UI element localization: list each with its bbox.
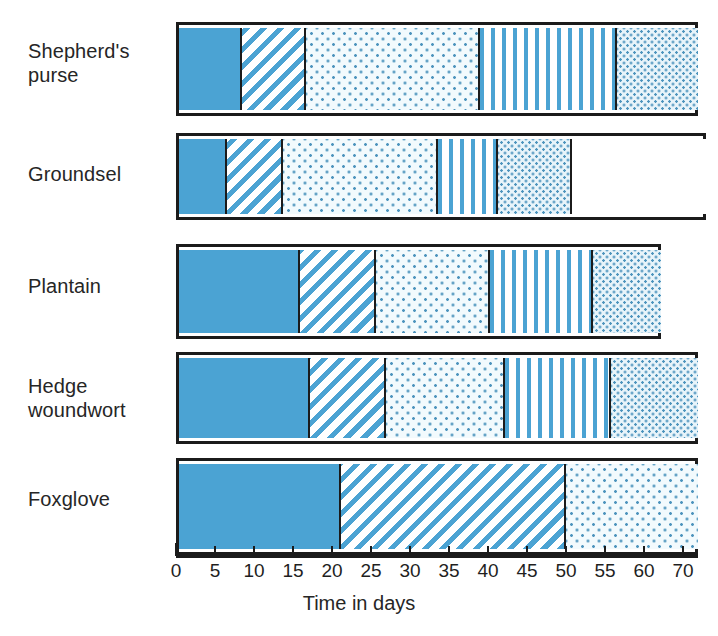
bar-row bbox=[176, 133, 706, 220]
axis-tick-label: 70 bbox=[672, 560, 693, 582]
bar-segment-fine-dots bbox=[611, 358, 698, 438]
axis-tick-label: 35 bbox=[438, 560, 459, 582]
bar-segment-vertical bbox=[480, 28, 617, 110]
bar-frame bbox=[176, 22, 698, 116]
stacked-bar-chart: Shepherd's purse Groundsel Plantain Hedg… bbox=[0, 0, 718, 636]
axis-tick-label: 20 bbox=[321, 560, 342, 582]
bar-segment-fine-dots bbox=[498, 139, 572, 214]
axis-tick-label: 55 bbox=[594, 560, 615, 582]
category-label-shepherds-purse: Shepherd's purse bbox=[28, 40, 168, 87]
bar-segment-solid bbox=[179, 250, 300, 333]
axis-tick-label: 40 bbox=[477, 560, 498, 582]
bar-frame bbox=[176, 458, 698, 555]
bar-segment-dots bbox=[376, 250, 490, 333]
bar-row bbox=[176, 458, 698, 555]
bar-segment-diagonal bbox=[310, 358, 386, 438]
bar-segment-diagonal bbox=[227, 139, 283, 214]
category-label-hedge-woundwort: Hedge woundwort bbox=[28, 375, 168, 422]
bar-segment-dots bbox=[306, 28, 480, 110]
category-label-foxglove: Foxglove bbox=[28, 488, 168, 512]
axis-tick-label: 50 bbox=[555, 560, 576, 582]
bar-segment-empty bbox=[572, 139, 706, 214]
bar-segment-solid bbox=[179, 358, 310, 438]
bar-segment-diagonal bbox=[300, 250, 376, 333]
bar-segment-dots bbox=[386, 358, 505, 438]
axis-tick-label: 45 bbox=[516, 560, 537, 582]
bar-segment-fine-dots bbox=[593, 250, 661, 333]
axis-tick-label: 30 bbox=[399, 560, 420, 582]
bar-segment-vertical bbox=[505, 358, 611, 438]
bar-row bbox=[176, 352, 698, 444]
bar-row bbox=[176, 22, 698, 116]
axis-tick-label: 0 bbox=[171, 560, 182, 582]
axis-tick-label: 25 bbox=[360, 560, 381, 582]
bar-segment-diagonal bbox=[242, 28, 306, 110]
x-axis-title: Time in days bbox=[0, 592, 718, 615]
bar-segment-dots bbox=[283, 139, 438, 214]
bar-segment-vertical bbox=[490, 250, 593, 333]
bar-segment-dots bbox=[566, 464, 698, 549]
axis-tick-label: 5 bbox=[210, 560, 221, 582]
bar-frame bbox=[176, 133, 706, 220]
bar-frame bbox=[176, 352, 698, 444]
bar-segment-vertical bbox=[438, 139, 498, 214]
bar-segment-solid bbox=[179, 28, 242, 110]
bar-frame bbox=[176, 244, 661, 339]
bar-segment-solid bbox=[179, 139, 227, 214]
bar-segment-fine-dots bbox=[617, 28, 698, 110]
bar-row bbox=[176, 244, 661, 339]
category-label-plantain: Plantain bbox=[28, 275, 168, 299]
bar-segment-diagonal bbox=[341, 464, 566, 549]
axis-tick-label: 10 bbox=[243, 560, 264, 582]
axis-tick-label: 60 bbox=[633, 560, 654, 582]
bar-segment-solid bbox=[179, 464, 341, 549]
axis-tick-label: 15 bbox=[282, 560, 303, 582]
category-label-groundsel: Groundsel bbox=[28, 163, 168, 187]
